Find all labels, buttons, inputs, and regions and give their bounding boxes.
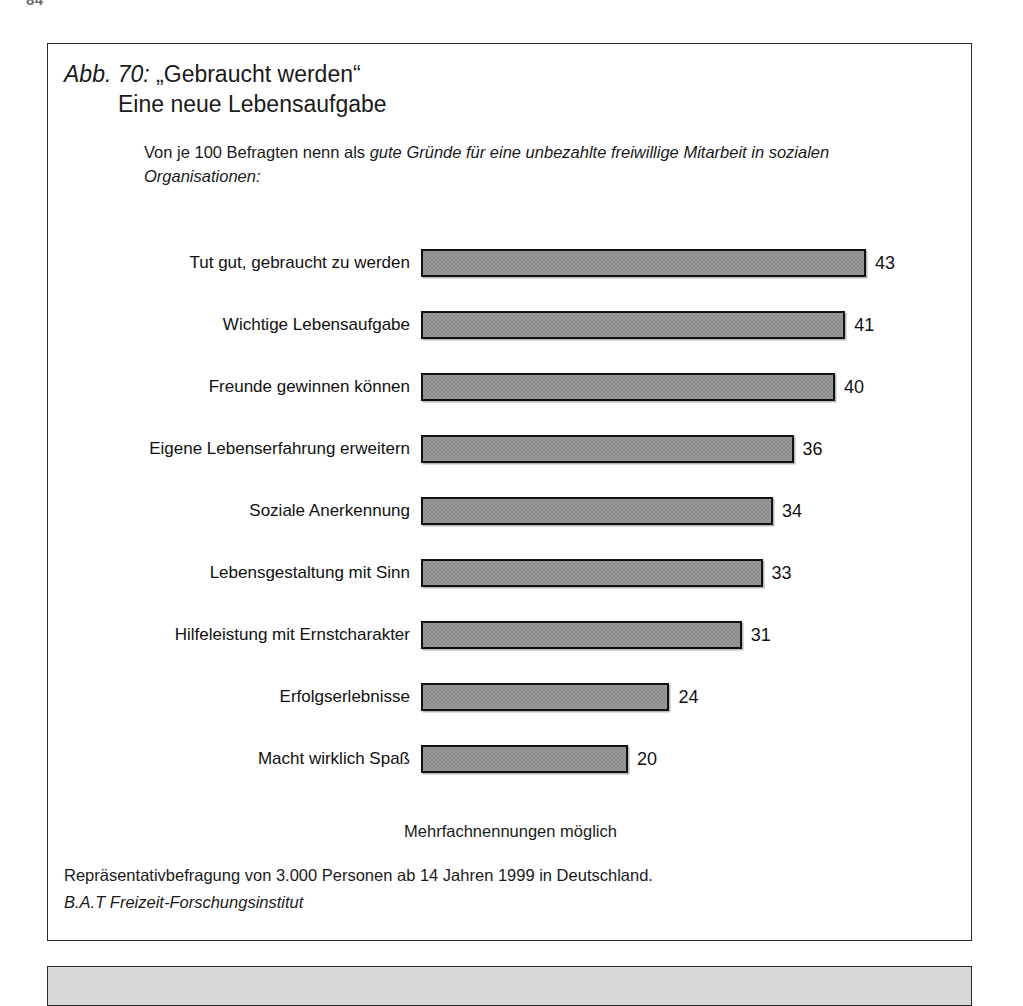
figure-box: Abb. 70: „Gebraucht werden“ Eine neue Le… <box>47 43 972 941</box>
bar-rect <box>421 745 628 773</box>
bar-row: Hilfeleistung mit Ernstcharakter31 <box>48 615 973 655</box>
bar-track: 34 <box>421 497 802 525</box>
bar-category-label: Lebensgestaltung mit Sinn <box>48 563 410 583</box>
bar-value-label: 41 <box>854 315 874 335</box>
bar-rect <box>421 621 742 649</box>
bar-category-label: Macht wirklich Spaß <box>48 749 410 769</box>
bar-track: 31 <box>421 621 771 649</box>
subtitle-plain-text: Von je 100 Befragten nenn als <box>144 143 370 161</box>
bar-track: 36 <box>421 435 823 463</box>
bar-value-label: 24 <box>678 687 698 707</box>
bar-track: 41 <box>421 311 874 339</box>
bar-category-label: Erfolgserlebnisse <box>48 687 410 707</box>
bar-value-label: 31 <box>751 625 771 645</box>
figure-subtitle: Von je 100 Befragten nenn als gute Gründ… <box>144 140 934 188</box>
bar-rect <box>421 497 773 525</box>
figure-heading: Abb. 70: „Gebraucht werden“ Eine neue Le… <box>64 60 944 119</box>
bar-row: Freunde gewinnen können40 <box>48 367 973 407</box>
bar-track: 40 <box>421 373 864 401</box>
figure-title-quoted: „Gebraucht werden“ <box>156 61 361 87</box>
bar-category-label: Eigene Lebenserfahrung erweitern <box>48 439 410 459</box>
source-institute-line: B.A.T Freizeit-Forschungsinstitut <box>64 889 954 916</box>
bar-track: 33 <box>421 559 792 587</box>
figure-title-line-1: Abb. 70: „Gebraucht werden“ <box>64 60 944 89</box>
bar-value-label: 43 <box>875 253 895 273</box>
bar-track: 24 <box>421 683 698 711</box>
bar-category-label: Tut gut, gebraucht zu werden <box>48 253 410 273</box>
bar-category-label: Hilfeleistung mit Ernstcharakter <box>48 625 410 645</box>
next-figure-box-partial <box>47 966 972 1006</box>
figure-number-label: Abb. 70: <box>64 61 150 87</box>
bar-value-label: 33 <box>772 563 792 583</box>
bar-row: Soziale Anerkennung34 <box>48 491 973 531</box>
bar-category-label: Soziale Anerkennung <box>48 501 410 521</box>
page-number: 84 <box>26 0 44 8</box>
bar-rect <box>421 559 763 587</box>
bar-row: Lebensgestaltung mit Sinn33 <box>48 553 973 593</box>
bar-value-label: 40 <box>844 377 864 397</box>
source-survey-line: Repräsentativbefragung von 3.000 Persone… <box>64 862 954 889</box>
bar-track: 20 <box>421 745 657 773</box>
bar-chart-plot-area: Tut gut, gebraucht zu werden43Wichtige L… <box>48 239 973 809</box>
bar-row: Tut gut, gebraucht zu werden43 <box>48 243 973 283</box>
bar-rect <box>421 373 835 401</box>
bar-rect <box>421 249 866 277</box>
bar-row: Macht wirklich Spaß20 <box>48 739 973 779</box>
bar-value-label: 20 <box>637 749 657 769</box>
bar-category-label: Freunde gewinnen können <box>48 377 410 397</box>
bar-track: 43 <box>421 249 895 277</box>
bar-rect <box>421 683 669 711</box>
bar-row: Wichtige Lebensaufgabe41 <box>48 305 973 345</box>
bar-rect <box>421 311 845 339</box>
figure-source: Repräsentativbefragung von 3.000 Persone… <box>64 862 954 916</box>
figure-title-line-2: Eine neue Lebensaufgabe <box>118 89 944 119</box>
multiple-answers-note: Mehrfachnennungen möglich <box>48 822 973 841</box>
bar-row: Eigene Lebenserfahrung erweitern36 <box>48 429 973 469</box>
bar-category-label: Wichtige Lebensaufgabe <box>48 315 410 335</box>
bar-row: Erfolgserlebnisse24 <box>48 677 973 717</box>
bar-value-label: 36 <box>803 439 823 459</box>
bar-rect <box>421 435 794 463</box>
bar-value-label: 34 <box>782 501 802 521</box>
